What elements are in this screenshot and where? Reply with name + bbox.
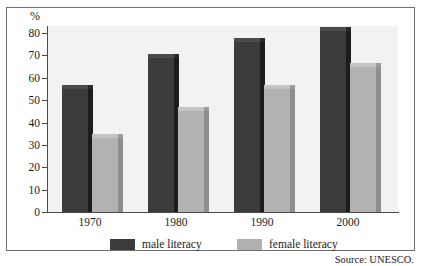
y-tick-60 bbox=[42, 78, 48, 79]
x-category-2000: 2000 bbox=[318, 216, 378, 228]
y-axis-tick-labels: 01020304050607080 bbox=[0, 0, 40, 266]
y-axis-line bbox=[47, 26, 48, 213]
legend-label-female: female literacy bbox=[269, 238, 338, 250]
female-swatch-icon bbox=[237, 239, 262, 250]
bar-face-front bbox=[264, 89, 290, 212]
bar-female-2000 bbox=[350, 67, 376, 212]
y-tick-label-60: 60 bbox=[0, 72, 40, 84]
bar-face-front bbox=[234, 42, 260, 212]
y-tick-80 bbox=[42, 33, 48, 34]
y-tick-label-70: 70 bbox=[0, 49, 40, 61]
bar-male-1970 bbox=[62, 89, 88, 212]
y-tick-50 bbox=[42, 100, 48, 101]
bar-face-side bbox=[118, 138, 123, 212]
x-category-1980: 1980 bbox=[146, 216, 206, 228]
bar-face-front bbox=[350, 67, 376, 212]
legend-label-male: male literacy bbox=[142, 238, 202, 250]
x-axis-line bbox=[42, 212, 399, 213]
bar-male-2000 bbox=[320, 31, 346, 212]
male-swatch-icon bbox=[110, 239, 135, 250]
bar-female-1980 bbox=[178, 111, 204, 212]
y-tick-70 bbox=[42, 55, 48, 56]
y-tick-30 bbox=[42, 145, 48, 146]
source-caption: Source: UNESCO. bbox=[335, 254, 414, 265]
bar-face-side bbox=[290, 89, 295, 212]
y-tick-label-20: 20 bbox=[0, 161, 40, 173]
y-tick-label-30: 30 bbox=[0, 139, 40, 151]
legend-item-male: male literacy bbox=[110, 238, 202, 250]
bar-female-1990 bbox=[264, 89, 290, 212]
chart-legend: male literacy female literacy bbox=[0, 236, 422, 256]
y-tick-10 bbox=[42, 190, 48, 191]
x-category-1990: 1990 bbox=[232, 216, 292, 228]
y-tick-label-10: 10 bbox=[0, 184, 40, 196]
bar-male-1980 bbox=[148, 58, 174, 212]
y-tick-0 bbox=[42, 212, 48, 213]
y-tick-40 bbox=[42, 123, 48, 124]
chart-figure: % 01020304050607080 1970198019902000 mal… bbox=[0, 0, 422, 266]
bar-face-front bbox=[62, 89, 88, 212]
y-tick-label-40: 40 bbox=[0, 117, 40, 129]
y-tick-label-80: 80 bbox=[0, 27, 40, 39]
y-tick-label-50: 50 bbox=[0, 94, 40, 106]
bar-face-front bbox=[92, 138, 118, 212]
bar-face-side bbox=[376, 67, 381, 212]
bar-face-side bbox=[204, 111, 209, 212]
x-category-1970: 1970 bbox=[60, 216, 120, 228]
bar-face-front bbox=[320, 31, 346, 212]
y-tick-label-0: 0 bbox=[0, 206, 40, 218]
legend-item-female: female literacy bbox=[237, 238, 338, 250]
bar-male-1990 bbox=[234, 42, 260, 212]
y-tick-20 bbox=[42, 167, 48, 168]
bar-face-front bbox=[148, 58, 174, 212]
bar-female-1970 bbox=[92, 138, 118, 212]
bar-face-front bbox=[178, 111, 204, 212]
